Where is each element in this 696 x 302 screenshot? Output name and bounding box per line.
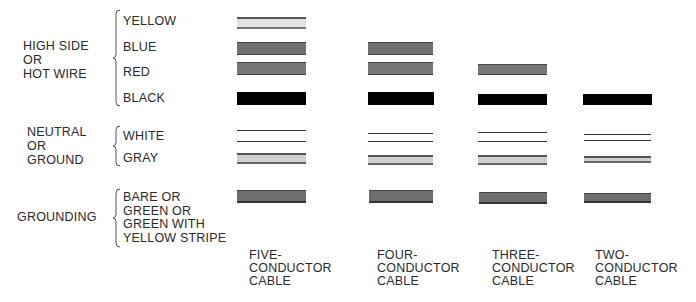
wire-gray	[478, 155, 547, 165]
wire-white	[478, 132, 547, 142]
wire-blue	[368, 42, 433, 55]
wire-label-gray: GRAY	[123, 151, 158, 165]
wire-gray	[237, 153, 306, 164]
wire-bare	[479, 192, 547, 204]
group-label-hot: HIGH SIDE OR HOT WIRE	[23, 39, 89, 81]
wire-label-blue: BLUE	[123, 40, 156, 54]
wire-black	[583, 94, 652, 105]
wire-yellow	[237, 17, 306, 29]
wire-red	[478, 64, 547, 75]
brace-icon	[112, 8, 122, 108]
wire-gray	[584, 156, 651, 163]
wire-red	[237, 62, 306, 75]
wire-label-black: BLACK	[123, 91, 165, 105]
group-label-grounding: GROUNDING	[17, 210, 97, 224]
brace-icon	[112, 187, 122, 249]
cable-caption-five: FIVE- CONDUCTOR CABLE	[249, 249, 332, 288]
wire-gray	[368, 155, 433, 165]
cable-caption-four: FOUR- CONDUCTOR CABLE	[377, 249, 460, 288]
wire-bare	[369, 190, 433, 203]
cable-caption-two: TWO- CONDUCTOR CABLE	[595, 249, 678, 288]
wire-white	[368, 133, 433, 142]
wire-black	[237, 92, 306, 105]
group-label-neutral: NEUTRAL OR GROUND	[27, 125, 87, 167]
wire-black	[478, 94, 547, 105]
wire-white	[584, 134, 651, 141]
wire-blue	[237, 42, 306, 55]
wire-red	[368, 62, 433, 75]
wire-white	[237, 130, 306, 142]
wire-label-bare: BARE OR GREEN OR GREEN WITH YELLOW STRIP…	[123, 191, 226, 245]
wire-bare	[237, 190, 306, 203]
wire-black	[368, 92, 434, 105]
wire-label-white: WHITE	[123, 129, 164, 143]
cable-caption-three: THREE- CONDUCTOR CABLE	[492, 249, 575, 288]
wire-label-red: RED	[123, 65, 150, 79]
brace-icon	[112, 124, 122, 168]
wire-bare	[584, 193, 651, 203]
wire-label-yellow: YELLOW	[123, 14, 176, 28]
